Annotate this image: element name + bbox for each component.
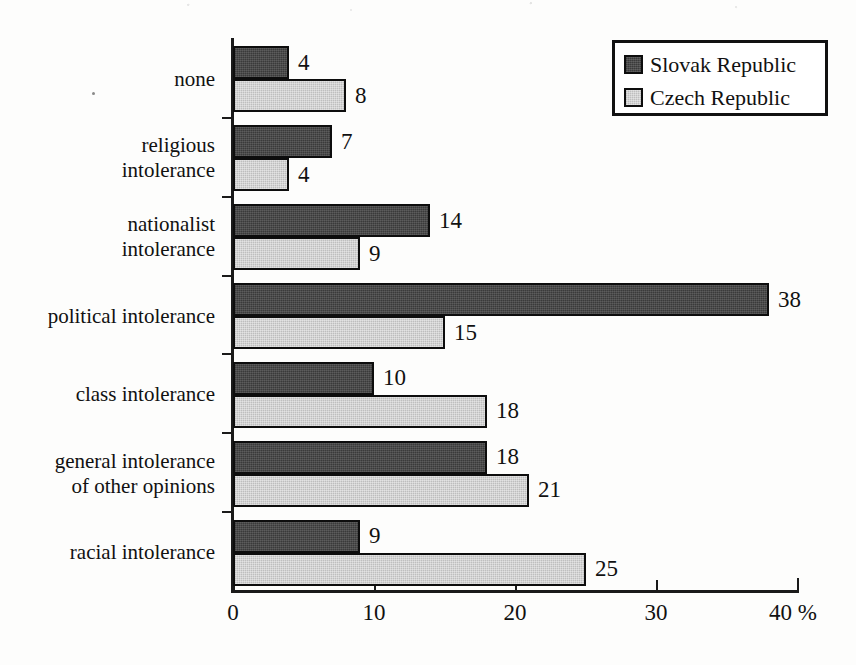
legend-item-czech-republic: Czech Republic — [624, 81, 825, 114]
x-axis-tick-label: 20 — [475, 600, 555, 626]
category-label: nationalist intolerance — [122, 212, 215, 262]
x-axis-tick — [797, 578, 799, 593]
legend-swatch-slovak-republic — [624, 55, 643, 74]
bar-value-label: 10 — [383, 365, 406, 391]
category-label: none — [174, 67, 215, 92]
y-axis-tick — [222, 275, 232, 277]
bar-czech-republic — [233, 474, 529, 507]
bar-czech-republic — [233, 553, 586, 586]
bar-slovak-republic — [233, 283, 769, 316]
bar-value-label: 15 — [454, 320, 477, 346]
bar-value-label: 4 — [298, 162, 310, 188]
y-axis-tick — [222, 511, 232, 513]
y-axis-tick — [222, 353, 232, 355]
legend-label-czech-republic: Czech Republic — [650, 86, 790, 110]
x-axis-tick-label: 0 — [193, 600, 273, 626]
bar-slovak-republic — [233, 441, 487, 474]
category-label: racial intolerance — [70, 540, 215, 565]
bar-value-label: 18 — [496, 444, 519, 470]
y-axis-tick — [222, 432, 232, 434]
bar-slovak-republic — [233, 125, 332, 158]
bar-value-label: 8 — [355, 83, 367, 109]
bar-value-label: 21 — [538, 477, 561, 503]
bar-value-label: 4 — [298, 50, 310, 76]
category-label: class intolerance — [76, 382, 215, 407]
bar-value-label: 9 — [369, 523, 381, 549]
x-axis-tick-label: 10 — [334, 600, 414, 626]
bar-czech-republic — [233, 316, 445, 349]
y-axis-tick — [222, 117, 232, 119]
bar-slovak-republic — [233, 520, 360, 553]
legend-label-slovak-republic: Slovak Republic — [650, 53, 796, 77]
y-axis-tick — [222, 196, 232, 198]
bar-value-label: 18 — [496, 398, 519, 424]
x-axis-tick-label: 30 — [616, 600, 696, 626]
bar-value-label: 25 — [595, 556, 618, 582]
bar-slovak-republic — [233, 46, 289, 79]
category-label: political intolerance — [48, 304, 215, 329]
bar-value-label: 7 — [341, 129, 353, 155]
chart-root: nonereligious intolerancenationalist int… — [0, 0, 856, 665]
bar-slovak-republic — [233, 362, 374, 395]
bar-czech-republic — [233, 237, 360, 270]
bar-value-label: 38 — [778, 287, 801, 313]
category-label: religious intolerance — [122, 133, 215, 183]
legend-item-slovak-republic: Slovak Republic — [624, 48, 825, 81]
bar-value-label: 14 — [439, 208, 462, 234]
bar-czech-republic — [233, 158, 289, 191]
x-axis-tick-label: 40 % — [769, 600, 817, 626]
bar-czech-republic — [233, 79, 346, 112]
bar-czech-republic — [233, 395, 487, 428]
x-axis-tick — [656, 580, 658, 593]
chart-legend: Slovak Republic Czech Republic — [612, 40, 828, 116]
category-label: general intolerance of other opinions — [55, 449, 215, 499]
bar-value-label: 9 — [369, 241, 381, 267]
legend-swatch-czech-republic — [624, 88, 643, 107]
bar-slovak-republic — [233, 204, 430, 237]
